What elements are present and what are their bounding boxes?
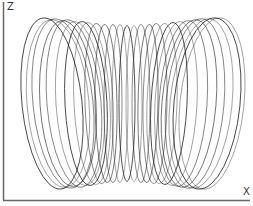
x-axis-label: X [243,187,250,197]
trajectory-loop [13,15,91,192]
trajectory-loops [13,15,253,193]
trajectory-loop [112,25,128,183]
helix-projection-plot [0,0,253,206]
trajectory-loop [119,26,135,182]
trajectory-loop [94,24,119,182]
trajectory-loop [61,21,112,187]
trajectory-loop [24,16,101,191]
trajectory-loop [137,24,160,182]
z-axis-label: Z [7,2,14,12]
